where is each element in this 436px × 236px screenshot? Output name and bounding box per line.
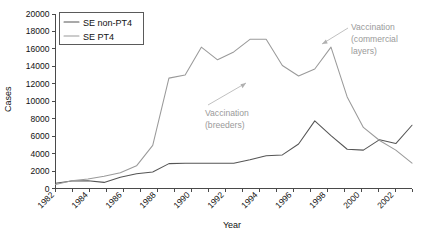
x-tick-label: 1998 [307,190,328,211]
y-tick-label: 10000 [26,96,50,106]
annotation-vaccination-breeders: Vaccination (breeders) [205,83,249,130]
y-tick-label: 18000 [26,26,50,36]
y-axis-tick-labels: 0200040006000800010000120001400016000180… [26,9,50,194]
y-axis-ticks [52,14,56,189]
y-tick-label: 6000 [31,131,50,141]
x-tick-label: 1994 [239,190,260,211]
x-axis-tick-labels: 1982198419861988199019921994199619982000… [35,190,395,211]
x-tick-label: 1984 [69,190,90,211]
x-tick-label: 1992 [205,190,226,211]
legend: SE non-PT4 SE PT4 [60,13,144,45]
annotation-arrowhead-commercial [322,39,328,44]
annotation-breeders-line-1: Vaccination [205,108,249,118]
y-tick-label: 16000 [26,44,50,54]
y-tick-label: 8000 [31,114,50,124]
annotation-commercial-line-1: Vaccination [351,22,395,32]
y-axis-title: Cases [3,86,13,112]
y-tick-label: 14000 [26,61,50,71]
legend-label-se-non-pt4: SE non-PT4 [83,18,132,28]
x-axis-ticks [56,189,413,193]
chart-container: 0200040006000800010000120001400016000180… [0,0,436,236]
line-chart: 0200040006000800010000120001400016000180… [0,0,436,236]
y-tick-label: 2000 [31,166,50,176]
y-tick-label: 20000 [26,9,50,19]
legend-label-se-pt4: SE PT4 [83,32,114,42]
series-line-se-non-pt4 [56,121,413,183]
annotation-arrow-breeders [208,83,246,105]
x-tick-label: 2002 [375,190,396,211]
annotation-commercial-line-3: layers) [351,46,377,56]
y-tick-label: 4000 [31,149,50,159]
x-tick-label: 1982 [35,190,56,211]
annotation-commercial-line-2: (commercial [351,34,398,44]
annotation-vaccination-commercial-layers: Vaccination (commercial layers) [322,22,398,56]
x-tick-label: 1986 [103,190,124,211]
x-tick-label: 2000 [341,190,362,211]
x-axis-title: Year [223,220,241,230]
annotation-breeders-line-2: (breeders) [205,120,245,130]
annotation-arrowhead-breeders [241,83,247,88]
x-tick-label: 1988 [137,190,158,211]
x-tick-label: 1990 [171,190,192,211]
x-tick-label: 1996 [273,190,294,211]
y-tick-label: 12000 [26,79,50,89]
